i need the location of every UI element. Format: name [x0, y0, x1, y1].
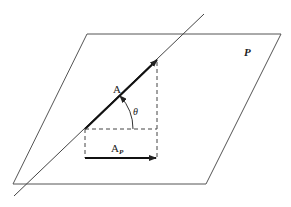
vector-a	[85, 60, 157, 129]
angle-label: θ	[133, 107, 138, 117]
plane-label: P	[244, 47, 251, 58]
vector-label: A	[113, 84, 121, 95]
plane-p	[13, 34, 281, 184]
projection-label: AP	[111, 143, 123, 156]
diagram-canvas	[0, 0, 291, 207]
angle-arc	[120, 96, 133, 129]
projection-subscript: P	[119, 148, 123, 156]
